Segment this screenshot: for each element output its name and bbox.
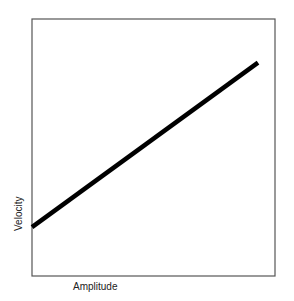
y-axis-label: Velocity <box>13 197 24 231</box>
plot-frame <box>32 19 275 276</box>
data-line <box>32 63 258 227</box>
x-axis-label: Amplitude <box>73 281 118 292</box>
chart: Amplitude Velocity <box>0 0 294 301</box>
